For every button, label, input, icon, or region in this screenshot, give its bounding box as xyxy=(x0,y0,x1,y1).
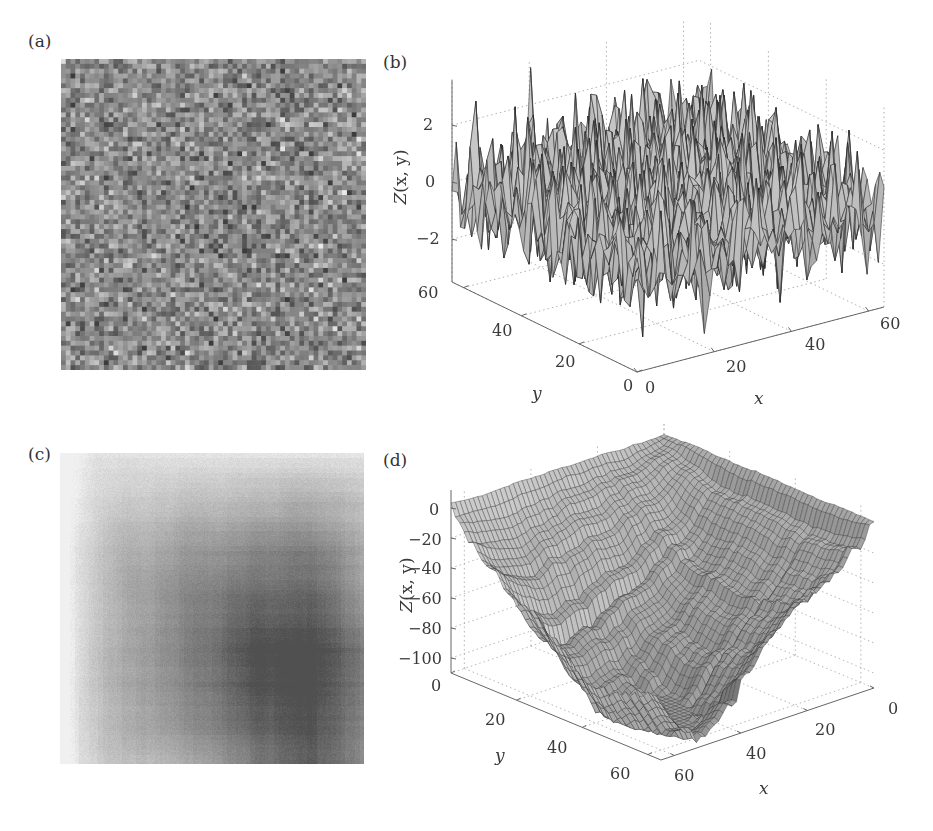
b-xtick-0: 0 xyxy=(645,378,655,397)
b-z-axis-label: Z(x, y) xyxy=(390,137,410,217)
d-y-axis-label: y xyxy=(495,745,505,765)
d-ytick-20: 20 xyxy=(485,710,505,729)
d-ytick-0: 0 xyxy=(431,676,441,695)
b-y-axis-label: y xyxy=(532,383,542,403)
b-ytick-60: 60 xyxy=(418,283,438,302)
b-xtick-60: 60 xyxy=(880,314,900,333)
d-zlabel-args: (x, y) xyxy=(396,557,416,600)
noise-image-a xyxy=(61,59,366,370)
d-ztick-neg100: −100 xyxy=(398,649,442,668)
d-xtick-0: 0 xyxy=(888,699,898,718)
d-ztick-0: 0 xyxy=(429,500,439,519)
d-ytick-40: 40 xyxy=(547,738,567,757)
panel-label-d: (d) xyxy=(383,450,407,470)
d-xtick-20: 20 xyxy=(815,720,835,739)
b-ytick-20: 20 xyxy=(555,352,575,371)
b-ztick-0: 0 xyxy=(425,172,435,191)
d-x-axis-label: x xyxy=(759,778,769,798)
b-xtick-20: 20 xyxy=(726,357,746,376)
d-zlabel-main: Z xyxy=(396,601,416,613)
smooth-image-c xyxy=(60,453,364,764)
b-xtick-40: 40 xyxy=(805,335,825,354)
d-xtick-60: 60 xyxy=(674,766,694,785)
panel-label-b: (b) xyxy=(383,52,407,72)
panel-label-c: (c) xyxy=(28,444,51,464)
b-zlabel-args: (x, y) xyxy=(390,149,410,192)
b-ytick-40: 40 xyxy=(492,321,512,340)
smooth-canvas-c xyxy=(60,453,364,764)
b-ytick-0: 0 xyxy=(623,376,633,395)
b-ztick-2: 2 xyxy=(423,115,433,134)
d-z-axis-label: Z(x, y) xyxy=(396,545,416,625)
b-zlabel-main: Z xyxy=(390,193,410,205)
noise-canvas-a xyxy=(61,59,366,370)
panel-label-a: (a) xyxy=(28,31,51,51)
d-ytick-60: 60 xyxy=(610,764,630,783)
b-ztick-neg2: −2 xyxy=(416,229,440,248)
d-xtick-40: 40 xyxy=(746,744,766,763)
b-x-axis-label: x xyxy=(754,388,764,408)
